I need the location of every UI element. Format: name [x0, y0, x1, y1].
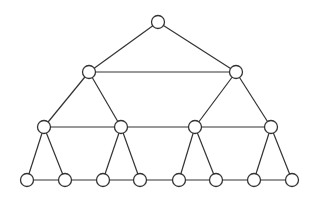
- tree-diagram: [0, 0, 318, 204]
- edge-n0-n2: [158, 22, 236, 72]
- edge-n6-n14: [271, 127, 292, 180]
- tree-node-n11: [173, 174, 186, 187]
- tree-node-n8: [59, 174, 72, 187]
- tree-node-n1: [83, 66, 96, 79]
- tree-node-n0: [152, 16, 165, 29]
- tree-node-n9: [97, 174, 110, 187]
- tree-node-n13: [248, 174, 261, 187]
- tree-node-n4: [115, 121, 128, 134]
- tree-node-n2: [230, 66, 243, 79]
- edge-n6-n13: [254, 127, 271, 180]
- edge-n1-n4: [89, 72, 121, 127]
- edge-n2-n6: [236, 72, 271, 127]
- tree-node-n5: [189, 121, 202, 134]
- edge-n3-n7: [27, 127, 44, 180]
- tree-node-n10: [134, 174, 147, 187]
- edge-n0-n1: [89, 22, 158, 72]
- edge-n4-n10: [121, 127, 140, 180]
- edge-n3-n8: [44, 127, 65, 180]
- nodes-group: [21, 16, 299, 187]
- tree-node-n3: [38, 121, 51, 134]
- edges-group: [27, 22, 292, 180]
- tree-node-n14: [286, 174, 299, 187]
- edge-n5-n12: [195, 127, 216, 180]
- tree-node-n12: [210, 174, 223, 187]
- tree-node-n7: [21, 174, 34, 187]
- edge-n4-n9: [103, 127, 121, 180]
- edge-n2-n5: [195, 72, 236, 127]
- edge-n5-n11: [179, 127, 195, 180]
- edge-n1-n3: [44, 72, 89, 127]
- tree-node-n6: [265, 121, 278, 134]
